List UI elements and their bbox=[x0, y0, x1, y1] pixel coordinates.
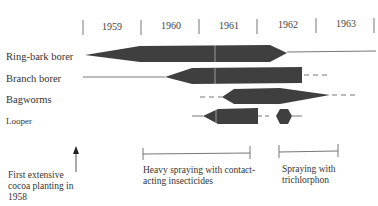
year-label-1963: 1963 bbox=[336, 18, 356, 29]
row-label-looper: Looper bbox=[6, 116, 32, 126]
first-planting-note: First extensive cocoa planting in 1958 bbox=[8, 170, 82, 203]
trichlorphon-note: Spraying with trichlorphon bbox=[282, 164, 352, 186]
row-label-ring-bark-borer: Ring-bark borer bbox=[6, 51, 73, 62]
year-label-1960: 1960 bbox=[161, 20, 181, 31]
year-label-1962: 1962 bbox=[278, 19, 298, 30]
bagworms-bar bbox=[200, 88, 356, 104]
year-label-1961: 1961 bbox=[219, 20, 239, 31]
heavy-spraying-bracket bbox=[143, 146, 250, 160]
trichlorphon-bracket bbox=[279, 144, 338, 158]
branch-borer-bar bbox=[83, 67, 330, 84]
ring-bark-borer-bar bbox=[85, 45, 376, 62]
heavy-spraying-note: Heavy spraying with contact-acting insec… bbox=[143, 165, 263, 187]
row-label-bagworms: Bagworms bbox=[6, 94, 52, 105]
row-label-branch-borer: Branch borer bbox=[6, 73, 61, 84]
year-label-1959: 1959 bbox=[102, 21, 122, 32]
looper-bar bbox=[192, 108, 302, 124]
first-planting-arrow-icon bbox=[73, 146, 79, 172]
